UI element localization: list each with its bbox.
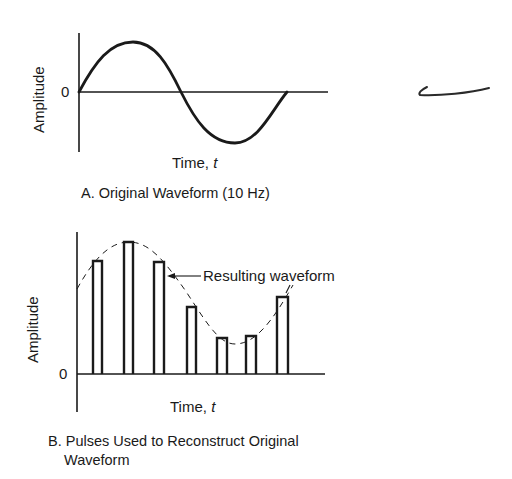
pulse-2 <box>124 242 133 374</box>
panel-a-x-label-var: t <box>213 154 217 171</box>
handwritten-pen-mark <box>419 87 489 95</box>
panel-b-y-axis-label: Amplitude <box>24 296 41 363</box>
panel-a-y-axis-label: Amplitude <box>30 66 47 133</box>
pulse-3 <box>154 262 164 374</box>
resulting-waveform-annotation: Resulting waveform <box>203 267 335 284</box>
pulse-4 <box>187 307 196 374</box>
panel-a-zero-label: 0 <box>61 83 69 100</box>
panel-b-x-label-var: t <box>211 398 215 415</box>
pulse-5 <box>217 338 227 374</box>
diagram-canvas <box>0 0 512 479</box>
panel-b-caption-line-2: Waveform <box>64 451 130 470</box>
annotation-leader-line-2 <box>286 285 290 293</box>
pulse-7 <box>277 297 288 374</box>
panel-a-caption: A. Original Waveform (10 Hz) <box>81 184 270 203</box>
panel-a-x-label-text: Time, <box>172 154 213 171</box>
pulse-6 <box>246 336 256 374</box>
panel-a-plot <box>79 33 328 152</box>
sample-pulses <box>93 242 288 374</box>
panel-b-plot <box>77 232 325 412</box>
panel-b-caption-line-1: B. Pulses Used to Reconstruct Original <box>48 432 299 451</box>
panel-a-x-axis-label: Time, t <box>172 154 217 171</box>
resulting-waveform-dashed-curve <box>77 242 293 344</box>
annotation-arrowhead-icon <box>167 273 175 279</box>
panel-b-x-axis-label: Time, t <box>170 398 215 415</box>
pulse-1 <box>93 261 102 374</box>
panel-b-zero-label: 0 <box>59 365 67 382</box>
panel-b-x-label-text: Time, <box>170 398 211 415</box>
